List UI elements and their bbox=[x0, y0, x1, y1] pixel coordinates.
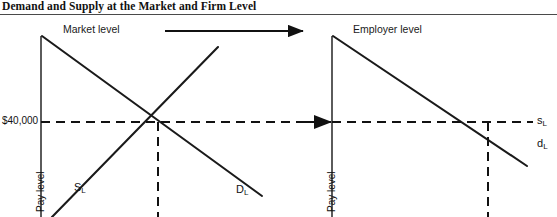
market-y-axis-label: Pay level bbox=[35, 171, 46, 212]
market-demand-label-subscript: L bbox=[244, 188, 248, 197]
employer-supply-label-subscript: L bbox=[543, 119, 547, 128]
market-demand-label-text: D bbox=[236, 183, 244, 195]
employer-demand-curve bbox=[333, 36, 527, 166]
employer-level-heading: Employer level bbox=[353, 23, 422, 35]
employer-demand-label: dL bbox=[537, 137, 548, 149]
market-demand-label: DL bbox=[236, 183, 248, 195]
market-level-heading: Market level bbox=[63, 23, 120, 35]
equilibrium-pay-value: $40,000 bbox=[2, 115, 38, 126]
employer-supply-label-text: s bbox=[537, 114, 543, 126]
employer-supply-label: sL bbox=[537, 114, 547, 126]
employer-demand-label-subscript: L bbox=[543, 142, 547, 151]
figure-container: Demand and Supply at the Market and Firm… bbox=[0, 0, 557, 217]
employer-y-axis-label: Pay level bbox=[326, 171, 337, 212]
market-supply-label-subscript: L bbox=[81, 186, 85, 195]
market-supply-label: SL bbox=[74, 181, 86, 193]
